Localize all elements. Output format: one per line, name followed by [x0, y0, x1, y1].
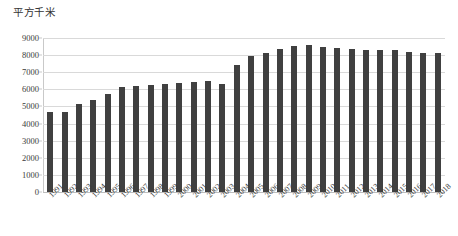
y-axis-tick-mark: [39, 38, 42, 39]
bar: [263, 53, 269, 192]
bar: [420, 53, 426, 192]
y-axis-tick-label: 6000: [22, 84, 39, 94]
y-axis-tick-mark: [39, 89, 42, 90]
y-axis-tick-label: 4000: [22, 119, 39, 129]
y-axis-tick-label: 1000: [22, 170, 39, 180]
bar: [392, 50, 398, 192]
bar: [349, 49, 355, 192]
bar: [377, 50, 383, 192]
y-axis-tick-label: 5000: [22, 101, 39, 111]
bar: [306, 45, 312, 192]
y-axis-tick-label: 7000: [22, 67, 39, 77]
x-axis: 1991199219931994199519961997199819992000…: [43, 193, 445, 236]
bar: [148, 85, 154, 192]
bar: [191, 82, 197, 192]
bar: [406, 52, 412, 192]
bar: [234, 65, 240, 192]
bar-series: [43, 38, 445, 192]
y-axis-tick-label: 2000: [22, 153, 39, 163]
bar: [205, 81, 211, 192]
bar: [90, 100, 96, 192]
bar: [47, 112, 53, 192]
y-axis-tick-mark: [39, 140, 42, 141]
y-axis-tick-mark: [39, 55, 42, 56]
y-axis-tick-mark: [39, 174, 42, 175]
y-axis-tick-label: 3000: [22, 136, 39, 146]
plot-area: [43, 38, 445, 192]
bar: [291, 46, 297, 192]
y-axis-tick-label: 8000: [22, 50, 39, 60]
chart-title: 平方千米: [13, 4, 55, 19]
y-axis-tick-label: 9000: [22, 33, 39, 43]
bar: [133, 86, 139, 192]
bar: [277, 49, 283, 192]
y-axis-tick-mark: [39, 72, 42, 73]
y-axis-tick-mark: [39, 106, 42, 107]
y-axis-tick-mark: [39, 157, 42, 158]
bar: [105, 94, 111, 192]
bar: [320, 47, 326, 192]
y-axis: 9000800070006000500040003000200010000: [0, 38, 39, 192]
bar: [435, 53, 441, 192]
y-axis-tick-mark: [39, 123, 42, 124]
bar: [334, 48, 340, 192]
bar: [76, 104, 82, 192]
bar: [119, 87, 125, 192]
bar: [176, 83, 182, 192]
bar: [162, 84, 168, 192]
bar: [363, 50, 369, 192]
y-axis-tick-mark: [39, 192, 42, 193]
bar-chart: 平方千米 90008000700060005000400030002000100…: [0, 0, 458, 236]
bar: [62, 112, 68, 192]
bar: [219, 84, 225, 192]
bar: [248, 56, 254, 192]
